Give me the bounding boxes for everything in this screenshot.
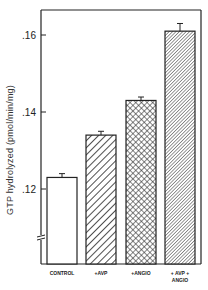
y-axis-ticks: .12.14.16 xyxy=(22,30,46,195)
error-bar xyxy=(177,23,183,31)
x-tick-label: +AVP xyxy=(95,270,108,276)
y-tick-label: .14 xyxy=(22,107,36,118)
x-axis-labels: CONTROL+AVP+ANGIO+ AVP +ANGIO xyxy=(50,270,190,283)
x-tick-label: ANGIO xyxy=(172,277,189,283)
x-tick-label: + AVP + xyxy=(171,270,189,276)
bar-control xyxy=(47,174,77,264)
bar-angio xyxy=(126,97,156,264)
bar-avp-angio xyxy=(165,23,195,264)
y-tick-label: .12 xyxy=(22,184,36,195)
x-tick-label: CONTROL xyxy=(50,270,75,276)
axis-break-icon xyxy=(37,235,45,240)
y-tick-label: .16 xyxy=(22,30,36,41)
y-axis-label: GTP hydrolyzed (pmol/min/mg) xyxy=(5,85,15,215)
x-tick-label: +ANGIO xyxy=(131,270,150,276)
bar-chart: .12.14.16 GTP hydrolyzed (pmol/min/mg) C… xyxy=(0,0,208,290)
bar-avp xyxy=(86,131,116,264)
bars xyxy=(47,23,195,264)
